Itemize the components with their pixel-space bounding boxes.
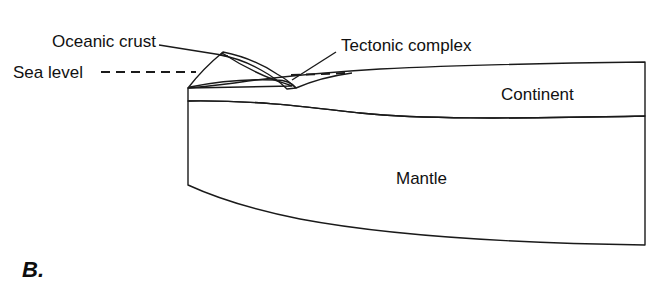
continent-layer xyxy=(188,62,645,118)
continent-body xyxy=(188,62,645,118)
sea-level-label: Sea level xyxy=(13,63,83,82)
geologic-cross-section-figure: Oceanic crust Sea level Tectonic complex… xyxy=(0,0,653,288)
mantle-label: Mantle xyxy=(396,169,447,188)
sea-level-line xyxy=(101,72,348,75)
continent-label: Continent xyxy=(501,85,574,104)
oceanic-crust-leader-line xyxy=(159,45,228,56)
tectonic-complex-leader-line xyxy=(292,52,336,80)
tectonic-complex-label: Tectonic complex xyxy=(341,36,472,55)
panel-letter: B. xyxy=(22,257,44,282)
cross-section-diagram: Oceanic crust Sea level Tectonic complex… xyxy=(0,0,653,288)
oceanic-crust-label: Oceanic crust xyxy=(52,32,156,51)
